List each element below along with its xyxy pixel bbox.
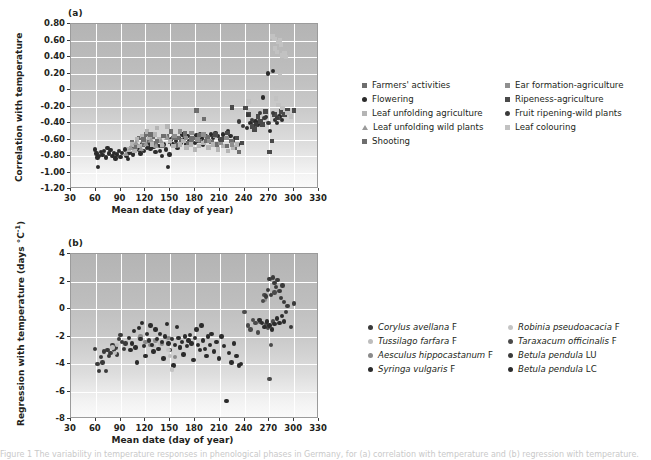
legend-marker-icon (368, 367, 373, 372)
legend-item[interactable]: Leaf unfolding agriculture (362, 106, 510, 120)
legend-item[interactable]: Fruit ripening-wild plants (505, 106, 651, 120)
data-point (206, 145, 211, 150)
data-point (282, 319, 286, 323)
panel-a-xaxis-title: Mean date (day of year) (0, 205, 345, 215)
yaxis-tick (67, 40, 70, 41)
yaxis-tick (67, 363, 70, 364)
legend-item[interactable]: Robinia pseudoacacia F (508, 320, 651, 334)
data-point (269, 343, 273, 347)
legend-item-label: Ear formation-agriculture (515, 80, 623, 91)
xaxis-tick (120, 418, 121, 421)
data-point (266, 121, 270, 125)
data-point (166, 165, 170, 169)
data-point (261, 299, 265, 303)
data-point (275, 121, 279, 125)
legend-item[interactable]: Leaf colouring (505, 120, 651, 134)
data-point (275, 84, 280, 89)
yaxis-tick-label: -0.40 (22, 117, 65, 127)
legend-item-label: Betula pendula LC (518, 364, 597, 375)
xaxis-tick-label: 330 (309, 423, 327, 433)
xaxis-tick (194, 188, 195, 191)
legend-item[interactable]: Leaf unfolding wild plants (362, 120, 510, 134)
data-point (178, 129, 183, 134)
legend-item[interactable]: Corylus avellana F (368, 320, 515, 334)
data-point (118, 333, 122, 337)
data-point (183, 131, 188, 136)
data-point (155, 139, 160, 144)
legend-item[interactable]: Syringa vulgaris F (368, 362, 515, 376)
data-point (289, 325, 293, 329)
yaxis-tick-label: -0.60 (22, 134, 65, 144)
xaxis-tick (219, 188, 220, 191)
data-point (196, 343, 200, 347)
data-point (137, 326, 141, 330)
legend-item[interactable]: Ripeness-agriculture (505, 92, 651, 106)
gridline-horizontal (71, 392, 317, 393)
data-point (289, 114, 294, 119)
legend-marker-icon (362, 125, 368, 130)
legend-item[interactable]: Flowering (362, 92, 510, 106)
gridline-horizontal (71, 364, 317, 365)
data-point (224, 136, 229, 141)
yaxis-tick-label: 4 (22, 248, 65, 258)
data-point (292, 301, 296, 305)
legend-marker-icon (362, 139, 367, 144)
data-point (270, 327, 274, 331)
xaxis-tick-label: 90 (114, 423, 126, 433)
data-point (194, 108, 199, 113)
legend-item[interactable]: Betula pendula LU (508, 348, 651, 362)
data-point (138, 146, 144, 151)
xaxis-tick-label: 30 (64, 193, 76, 203)
data-point (158, 149, 162, 153)
yaxis-tick-label: 0.60 (22, 35, 65, 45)
data-point (185, 344, 189, 348)
data-point (201, 338, 205, 342)
data-point (138, 337, 142, 341)
panel-b-plot-area (70, 253, 318, 418)
panel-a-label: (a) (68, 8, 83, 18)
data-point (270, 139, 275, 144)
gridline-vertical (195, 24, 196, 187)
legend-item-label: Farmers' activities (372, 80, 450, 91)
data-point (235, 142, 240, 147)
legend-item[interactable]: Aesculus hippocastanum F (368, 348, 515, 362)
data-point (280, 314, 284, 318)
data-point (256, 330, 260, 334)
data-point (165, 124, 170, 129)
data-point (100, 360, 104, 364)
data-point (178, 345, 182, 349)
yaxis-tick (67, 418, 70, 419)
data-point (235, 136, 240, 141)
data-point (170, 367, 174, 371)
xaxis-tick-label: 90 (114, 193, 126, 203)
data-point (266, 288, 270, 292)
data-point (155, 126, 160, 131)
xaxis-tick (95, 418, 96, 421)
data-point (285, 304, 289, 308)
data-point (128, 348, 132, 352)
legend-item[interactable]: Ear formation-agriculture (505, 78, 651, 92)
panel-b-label: (b) (68, 238, 83, 248)
data-point (167, 152, 171, 156)
data-point (153, 143, 159, 148)
gridline-vertical (294, 24, 295, 187)
data-point (240, 141, 245, 146)
legend-item[interactable]: Betula pendula LC (508, 362, 651, 376)
legend-item[interactable]: Tussilago farfara F (368, 334, 515, 348)
data-point (232, 341, 236, 345)
xaxis-tick-label: 240 (235, 423, 253, 433)
legend-item[interactable]: Farmers' activities (362, 78, 510, 92)
xaxis-tick-label: 60 (89, 423, 101, 433)
legend-marker-icon (368, 353, 373, 358)
data-point (123, 341, 127, 345)
panel-b-xaxis-title: Mean date (day of year) (0, 435, 345, 445)
xaxis-tick-label: 330 (309, 193, 327, 203)
data-point (267, 377, 271, 381)
data-point (213, 132, 218, 137)
data-point (104, 155, 108, 159)
data-point (262, 116, 266, 120)
data-point (189, 137, 194, 142)
legend-item[interactable]: Taraxacum officinalis F (508, 334, 651, 348)
legend-item[interactable]: Shooting (362, 134, 510, 148)
data-point (145, 332, 149, 336)
